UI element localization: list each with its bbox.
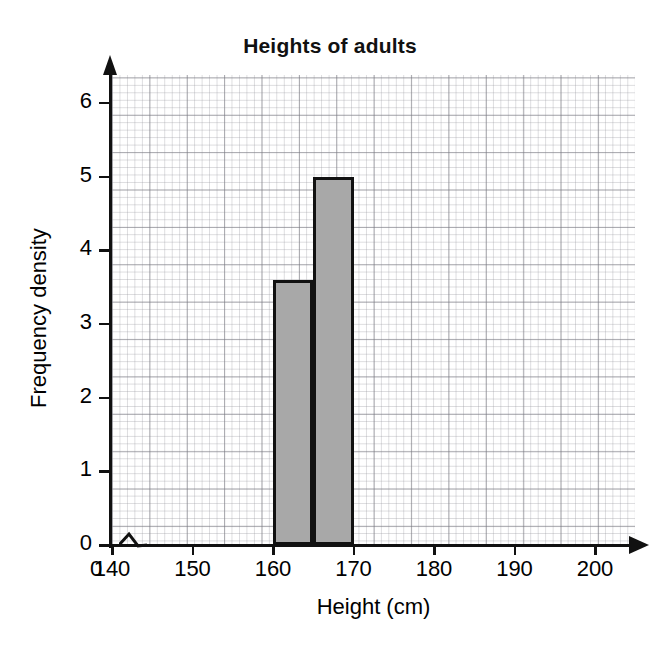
x-axis-tick: [514, 544, 517, 555]
x-axis-arrow-icon: [629, 536, 649, 554]
y-axis-tick-label: 1: [0, 456, 92, 482]
y-axis-line: [109, 70, 112, 548]
x-axis-tick-label: 180: [416, 556, 453, 582]
x-axis-tick-label: 190: [496, 556, 533, 582]
y-axis-title: Frequency density: [26, 178, 52, 458]
y-axis-tick: [99, 323, 110, 326]
y-axis-tick: [99, 544, 110, 547]
x-axis-break-icon: [119, 528, 165, 550]
y-axis-tick: [99, 397, 110, 400]
chart-title: Heights of adults: [0, 34, 660, 58]
y-axis-tick-label: 0: [0, 530, 92, 556]
plot-grid-area: [112, 75, 635, 545]
histogram-bar: [313, 177, 353, 546]
histogram-bar: [273, 280, 313, 545]
y-axis-tick-label: 6: [0, 88, 92, 114]
histogram-chart: Heights of adults 0123456 01401501601701…: [0, 0, 660, 651]
x-axis-tick: [353, 544, 356, 555]
x-axis-tick: [272, 544, 275, 555]
x-axis-tick: [192, 544, 195, 555]
y-axis-tick: [99, 249, 110, 252]
x-axis-tick: [433, 544, 436, 555]
x-axis-tick: [594, 544, 597, 555]
x-axis-tick-label: 170: [335, 556, 372, 582]
x-axis-title: Height (cm): [112, 594, 635, 620]
y-axis-tick: [99, 470, 110, 473]
y-axis-tick: [99, 176, 110, 179]
x-axis-tick-label: 160: [255, 556, 292, 582]
x-axis-tick-label: 140: [94, 556, 131, 582]
x-axis-tick-label: 200: [577, 556, 614, 582]
x-axis-tick-label: 150: [174, 556, 211, 582]
x-axis-tick: [111, 544, 114, 555]
y-axis-tick: [99, 102, 110, 105]
y-axis-arrow-icon: [103, 55, 117, 75]
x-axis-line: [109, 544, 632, 547]
